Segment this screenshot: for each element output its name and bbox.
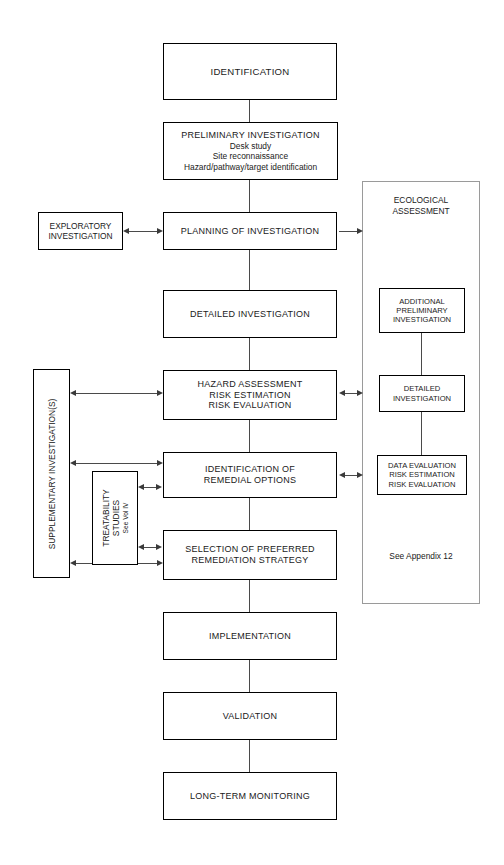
implementation-label: IMPLEMENTATION <box>168 631 332 642</box>
validation-label: VALIDATION <box>168 711 332 722</box>
connector-eco-detailed-to-data-evaluation <box>421 412 422 455</box>
treatability-studies-text: TREATABILITY STUDIES See Vol IV <box>101 489 130 546</box>
arrowhead-to-treatability-2 <box>138 544 144 550</box>
arrowhead-to-hazard-right <box>339 390 345 396</box>
eco-additional-line-2: PRELIMINARY <box>384 306 460 315</box>
connector-validation-to-monitoring <box>249 740 250 772</box>
box-identification-of-remedial-options[interactable]: IDENTIFICATION OF REMEDIAL OPTIONS <box>163 452 337 498</box>
exploratory-investigation-line-1: EXPLORATORY <box>43 221 118 231</box>
connector-planning-to-detailed <box>249 250 250 290</box>
treatability-studies-line-3: See Vol IV <box>121 489 129 546</box>
eco-additional-line-1: ADDITIONAL <box>384 297 460 306</box>
box-detailed-investigation[interactable]: DETAILED INVESTIGATION <box>163 290 337 338</box>
arrowhead-to-exploratory <box>123 228 129 234</box>
box-eco-data-evaluation[interactable]: DATA EVALUATION RISK ESTIMATION RISK EVA… <box>377 455 467 495</box>
arrowhead-to-eco-detailed <box>357 390 363 396</box>
box-implementation[interactable]: IMPLEMENTATION <box>163 612 337 660</box>
hazard-assessment-line-3: RISK EVALUATION <box>168 400 332 411</box>
eco-title-line-1: ECOLOGICAL <box>362 195 480 206</box>
box-treatability-studies[interactable]: TREATABILITY STUDIES See Vol IV <box>92 471 138 565</box>
arrowhead-to-supplementary-3 <box>70 560 76 566</box>
preliminary-investigation-item-2: Site reconnaissance <box>168 151 333 161</box>
eco-title-line-2: ASSESSMENT <box>362 206 480 217</box>
connector-hazard-to-remedial <box>249 420 250 452</box>
eco-additional-line-3: INVESTIGATION <box>384 315 460 324</box>
connector-remedial-to-selection <box>249 498 250 530</box>
connector-supplementary-remedial <box>74 463 159 464</box>
hazard-assessment-line-2: RISK ESTIMATION <box>168 390 332 401</box>
planning-of-investigation-label: PLANNING OF INVESTIGATION <box>168 226 332 237</box>
box-eco-additional-preliminary-investigation[interactable]: ADDITIONAL PRELIMINARY INVESTIGATION <box>379 288 465 333</box>
selection-line-1: SELECTION OF PREFERRED <box>168 544 332 555</box>
ecological-assessment-note: See Appendix 12 <box>362 551 480 561</box>
box-eco-detailed-investigation[interactable]: DETAILED INVESTIGATION <box>379 375 465 412</box>
arrowhead-to-treatability-1 <box>138 484 144 490</box>
exploratory-investigation-line-2: INVESTIGATION <box>43 231 118 241</box>
arrowhead-to-supplementary-2 <box>70 460 76 466</box>
identification-label: IDENTIFICATION <box>168 66 332 78</box>
box-hazard-assessment[interactable]: HAZARD ASSESSMENT RISK ESTIMATION RISK E… <box>163 370 337 420</box>
long-term-monitoring-label: LONG-TERM MONITORING <box>168 791 332 802</box>
preliminary-investigation-item-3: Hazard/pathway/target identification <box>168 162 333 172</box>
arrowhead-to-eco-data-evaluation <box>357 472 363 478</box>
preliminary-investigation-item-1: Desk study <box>168 141 333 151</box>
arrowhead-to-remedial-right <box>339 472 345 478</box>
box-identification[interactable]: IDENTIFICATION <box>163 43 337 100</box>
connector-identification-to-preliminary <box>249 100 250 122</box>
connector-preliminary-to-planning <box>249 180 250 212</box>
eco-data-evaluation-line-2: RISK ESTIMATION <box>382 470 462 479</box>
box-exploratory-investigation[interactable]: EXPLORATORY INVESTIGATION <box>38 212 123 250</box>
treatability-studies-line-1: TREATABILITY <box>101 489 111 546</box>
eco-data-evaluation-line-3: RISK EVALUATION <box>382 480 462 489</box>
preliminary-investigation-title: PRELIMINARY INVESTIGATION <box>168 130 333 141</box>
box-selection-of-preferred-remediation-strategy[interactable]: SELECTION OF PREFERRED REMEDIATION STRAT… <box>163 530 337 580</box>
eco-detailed-line-1: DETAILED <box>384 384 460 393</box>
eco-data-evaluation-line-1: DATA EVALUATION <box>382 461 462 470</box>
box-validation[interactable]: VALIDATION <box>163 692 337 740</box>
box-planning-of-investigation[interactable]: PLANNING OF INVESTIGATION <box>163 212 337 250</box>
treatability-studies-line-2: STUDIES <box>111 489 121 546</box>
box-supplementary-investigations[interactable]: SUPPLEMENTARY INVESTIGATION(S) <box>33 369 70 578</box>
flowchart-canvas: ECOLOGICAL ASSESSMENT See Appendix 12 ID… <box>0 0 504 865</box>
connector-detailed-to-hazard <box>249 338 250 370</box>
remedial-options-line-1: IDENTIFICATION OF <box>168 464 332 475</box>
supplementary-investigations-label: SUPPLEMENTARY INVESTIGATION(S) <box>46 398 56 549</box>
arrowhead-to-remedial-from-treatability <box>156 484 162 490</box>
connector-implementation-to-validation <box>249 660 250 692</box>
detailed-investigation-label: DETAILED INVESTIGATION <box>168 309 332 320</box>
connector-eco-additional-to-detailed <box>421 333 422 375</box>
connector-supplementary-hazard <box>74 393 159 394</box>
remedial-options-line-2: REMEDIAL OPTIONS <box>168 475 332 486</box>
arrowhead-to-selection-from-treatability <box>156 544 162 550</box>
selection-line-2: REMEDIATION STRATEGY <box>168 555 332 566</box>
arrowhead-to-eco-panel <box>357 228 363 234</box>
connector-selection-to-implementation <box>249 580 250 612</box>
eco-detailed-line-2: INVESTIGATION <box>384 394 460 403</box>
ecological-assessment-title: ECOLOGICAL ASSESSMENT <box>362 195 480 216</box>
hazard-assessment-line-1: HAZARD ASSESSMENT <box>168 379 332 390</box>
box-preliminary-investigation[interactable]: PRELIMINARY INVESTIGATION Desk study Sit… <box>163 122 338 180</box>
connector-exploratory-planning <box>127 231 159 232</box>
box-long-term-monitoring[interactable]: LONG-TERM MONITORING <box>163 772 337 820</box>
arrowhead-to-supplementary-1 <box>70 390 76 396</box>
